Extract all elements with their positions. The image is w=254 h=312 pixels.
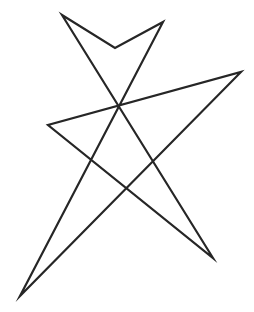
star-polygon-figure: [0, 0, 254, 312]
drawing-canvas: [0, 0, 254, 312]
canvas-background: [0, 0, 254, 312]
